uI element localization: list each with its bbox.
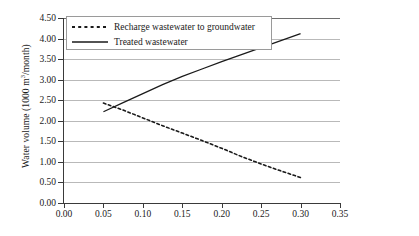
x-tick-label: 0.00 xyxy=(44,209,84,220)
x-tick-label: 0.05 xyxy=(83,209,123,220)
legend-swatch-dashed-icon xyxy=(71,22,109,32)
y-tick-label: 1.50 xyxy=(28,136,56,146)
y-tick-label: 3.00 xyxy=(28,75,56,85)
x-tick-label: 0.15 xyxy=(162,209,202,220)
legend-swatch-solid-icon xyxy=(71,37,109,47)
x-tick-mark xyxy=(182,203,183,208)
x-tick-mark xyxy=(261,203,262,208)
y-tick-label: 0.50 xyxy=(28,177,56,187)
chart-figure: Water volume (1000 m3/month) 0.000.501.0… xyxy=(0,0,419,236)
y-tick-label: 2.00 xyxy=(28,116,56,126)
legend: Recharge wastewater to groundwater Treat… xyxy=(66,16,272,50)
y-axis-title-superscript: 3 xyxy=(19,75,26,78)
y-tick-label: 1.00 xyxy=(28,157,56,167)
x-tick-label: 0.10 xyxy=(123,209,163,220)
x-tick-label: 0.35 xyxy=(320,209,360,220)
y-tick-label: 4.50 xyxy=(28,13,56,23)
x-tick-mark xyxy=(301,203,302,208)
x-tick-label: 0.20 xyxy=(202,209,242,220)
x-tick-mark xyxy=(143,203,144,208)
x-tick-label: 0.25 xyxy=(241,209,281,220)
x-axis-line xyxy=(63,203,340,204)
x-tick-mark xyxy=(64,203,65,208)
y-tick-label: 3.50 xyxy=(28,54,56,64)
legend-item-treated: Treated wastewater xyxy=(71,34,267,49)
series-recharge-wastewater-line xyxy=(103,103,300,177)
y-tick-label: 0.00 xyxy=(28,198,56,208)
x-tick-mark xyxy=(222,203,223,208)
legend-label-recharge: Recharge wastewater to groundwater xyxy=(114,22,255,32)
legend-label-treated: Treated wastewater xyxy=(114,37,188,47)
x-tick-mark xyxy=(340,203,341,208)
y-tick-label: 2.50 xyxy=(28,95,56,105)
y-tick-label: 4.00 xyxy=(28,34,56,44)
x-tick-mark xyxy=(103,203,104,208)
x-tick-label: 0.30 xyxy=(281,209,321,220)
legend-item-recharge: Recharge wastewater to groundwater xyxy=(71,19,267,34)
